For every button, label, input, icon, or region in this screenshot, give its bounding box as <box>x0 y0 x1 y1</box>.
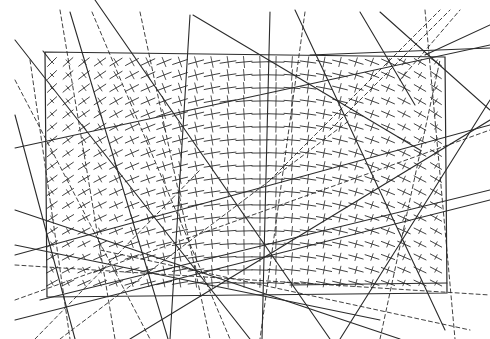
line-drawing <box>0 0 490 339</box>
hatch-cross <box>228 266 229 275</box>
line-artwork-canvas <box>0 0 490 339</box>
hatch-cross <box>276 239 277 248</box>
hatch-cross <box>244 161 245 171</box>
hatch-cross <box>276 226 277 235</box>
